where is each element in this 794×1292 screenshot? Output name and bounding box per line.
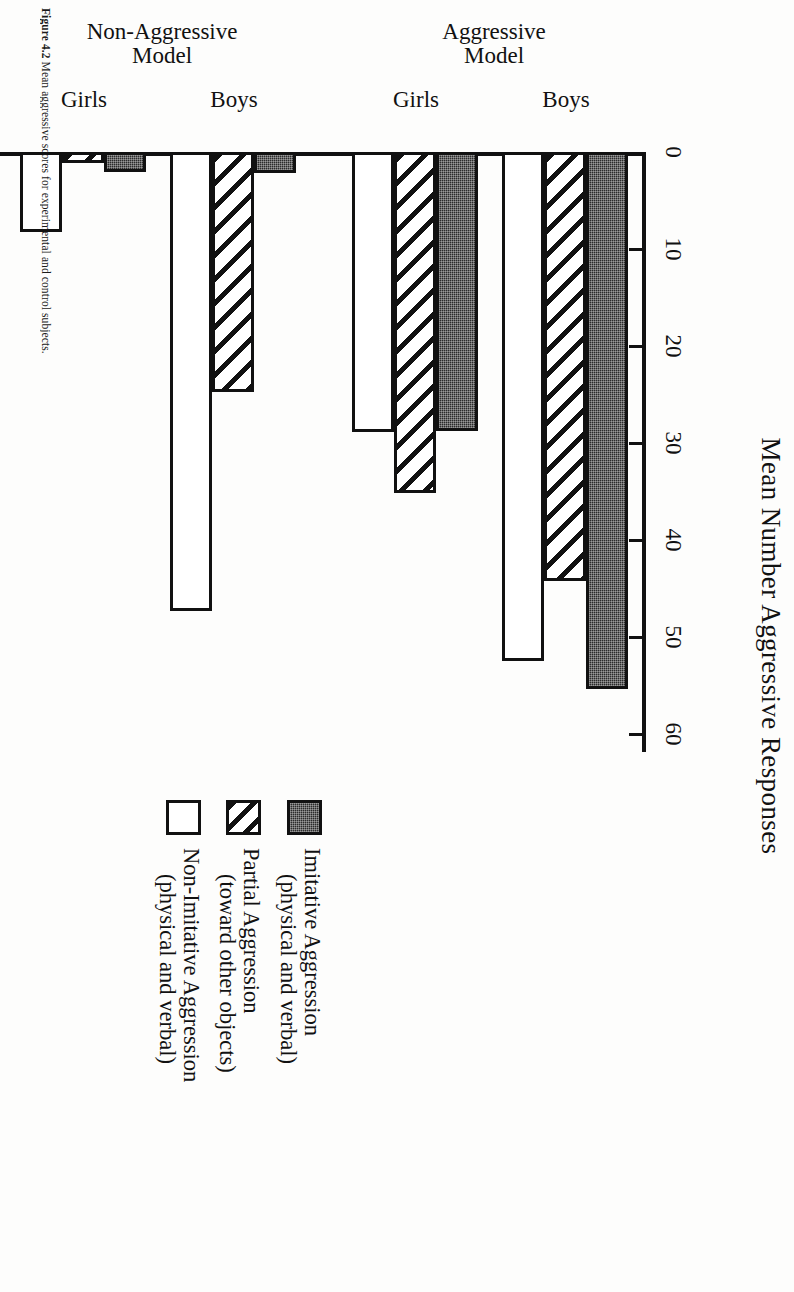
group-label-line: Non-Aggressive — [47, 20, 277, 44]
bar — [254, 152, 296, 173]
legend-swatch-hatch — [226, 800, 261, 835]
axis-tick-label: 10 — [660, 229, 686, 269]
bar — [502, 152, 544, 661]
axis-tick — [629, 345, 646, 348]
figure-stage: Mean Number Aggressive Responses 0102030… — [0, 0, 794, 1292]
category-label-boys-2: Boys — [174, 87, 294, 113]
axis-tick-label: 40 — [660, 520, 686, 560]
bar — [352, 152, 394, 432]
legend-label: Imitative Aggression(physical and verbal… — [275, 848, 324, 1064]
legend-swatch-open — [166, 800, 201, 835]
figure-caption-text: Mean aggressive scores for experimental … — [40, 62, 52, 354]
legend-label-line2: (physical and verbal) — [275, 848, 299, 1064]
legend-label-line1: Partial Aggression — [239, 848, 264, 1014]
axis-tick-label: 50 — [660, 617, 686, 657]
group-label-non-aggressive-model: Non-AggressiveModel — [47, 20, 277, 68]
bar — [104, 152, 146, 172]
axis-tick — [629, 636, 646, 639]
bar — [62, 152, 104, 163]
figure-caption-label: Figure 4.2 — [40, 8, 52, 59]
value-axis-line — [642, 152, 646, 752]
legend-label-line1: Non-Imitative Aggression — [179, 848, 204, 1082]
bar — [436, 152, 478, 431]
chart-title: Mean Number Aggressive Responses — [755, 0, 786, 1292]
legend-label-line1: Imitative Aggression — [300, 848, 325, 1036]
axis-tick-label: 20 — [660, 326, 686, 366]
axis-tick — [629, 539, 646, 542]
legend-item-0: Imitative Aggression(physical and verbal… — [275, 800, 324, 1220]
group-label-aggressive-model: AggressiveModel — [379, 20, 609, 68]
bar — [394, 152, 436, 493]
legend-item-1: Partial Aggression(toward other objects) — [215, 800, 264, 1220]
bar — [544, 152, 586, 581]
legend-item-2: Non-Imitative Aggression(physical and ve… — [154, 800, 203, 1220]
bar — [212, 152, 254, 392]
axis-tick-label: 30 — [660, 423, 686, 463]
group-label-line: Model — [47, 44, 277, 68]
bar — [586, 152, 628, 689]
figure-caption: Figure 4.2 Mean aggressive scores for ex… — [40, 8, 52, 768]
axis-tick-label: 0 — [660, 132, 686, 172]
axis-tick-label: 60 — [660, 714, 686, 754]
legend-label: Partial Aggression(toward other objects) — [215, 848, 264, 1073]
axis-tick — [629, 733, 646, 736]
group-label-line: Aggressive — [379, 20, 609, 44]
legend-label-line2: (physical and verbal) — [154, 848, 178, 1082]
category-label-boys-0: Boys — [506, 87, 626, 113]
legend: Imitative Aggression(physical and verbal… — [142, 800, 324, 1220]
bar — [170, 152, 212, 611]
group-label-line: Model — [379, 44, 609, 68]
legend-label-line2: (toward other objects) — [215, 848, 239, 1073]
legend-label: Non-Imitative Aggression(physical and ve… — [154, 848, 203, 1082]
legend-swatch-solid — [287, 800, 322, 835]
axis-tick — [629, 442, 646, 445]
axis-tick — [629, 248, 646, 251]
category-label-girls-1: Girls — [356, 87, 476, 113]
